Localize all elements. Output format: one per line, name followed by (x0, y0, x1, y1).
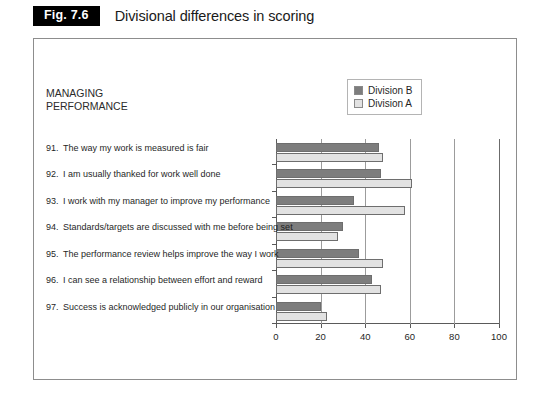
x-tick-label-20: 20 (315, 331, 326, 342)
category-number: 96. (46, 275, 63, 285)
category-label: 91.The way my work is measured is fair (46, 143, 209, 153)
chart-block-title: MANAGING PERFORMANCE (46, 87, 128, 113)
category-label: 96.I can see a relationship between effo… (46, 275, 262, 285)
bar-chart-plot-area: 020406080100 (276, 139, 499, 324)
legend-label-division-b: Division B (368, 85, 412, 96)
category-number: 93. (46, 196, 63, 206)
bar-division-b[interactable] (276, 169, 381, 178)
bar-division-b[interactable] (276, 275, 372, 284)
bar-group (276, 298, 499, 324)
bar-division-a[interactable] (276, 153, 383, 162)
x-tick-0 (276, 324, 277, 328)
bar-division-a[interactable] (276, 206, 405, 215)
bar-division-a[interactable] (276, 179, 412, 188)
category-label: 92.I am usually thanked for work well do… (46, 169, 221, 179)
x-tick-20 (321, 324, 322, 328)
figure-title: Divisional differences in scoring (115, 8, 315, 24)
x-tick-label-60: 60 (405, 331, 416, 342)
figure-heading: Fig. 7.6 Divisional differences in scori… (33, 6, 314, 26)
x-tick-40 (365, 324, 366, 328)
category-number: 92. (46, 169, 63, 179)
x-tick-label-80: 80 (449, 331, 460, 342)
category-label: 97.Success is acknowledged publicly in o… (46, 302, 275, 312)
bar-group (276, 218, 499, 244)
bar-division-a[interactable] (276, 285, 381, 294)
category-label: 93.I work with my manager to improve my … (46, 196, 270, 206)
gridline-100 (499, 139, 500, 324)
x-tick-80 (454, 324, 455, 328)
bar-division-a[interactable] (276, 259, 383, 268)
bar-group (276, 245, 499, 271)
x-tick-label-40: 40 (360, 331, 371, 342)
category-text: Success is acknowledged publicly in our … (63, 302, 275, 312)
category-text: I can see a relationship between effort … (63, 275, 262, 285)
category-number: 91. (46, 143, 63, 153)
figure-frame: MANAGING PERFORMANCE Division B Division… (33, 38, 517, 380)
legend-label-division-a: Division A (368, 98, 412, 109)
category-label: 95.The performance review helps improve … (46, 249, 279, 259)
y-tick (272, 323, 276, 324)
legend-swatch-division-b (354, 86, 363, 95)
category-number: 95. (46, 249, 63, 259)
bar-group (276, 271, 499, 297)
category-text: The way my work is measured is fair (63, 143, 209, 153)
bar-division-a[interactable] (276, 232, 338, 241)
category-text: The performance review helps improve the… (63, 249, 279, 259)
x-tick-label-100: 100 (491, 331, 507, 342)
bar-group (276, 139, 499, 165)
x-tick-60 (410, 324, 411, 328)
bar-group (276, 165, 499, 191)
bar-division-b[interactable] (276, 302, 321, 311)
category-number: 97. (46, 302, 63, 312)
x-tick-100 (499, 324, 500, 328)
bar-group (276, 192, 499, 218)
chart-legend: Division B Division A (347, 79, 422, 115)
bar-division-b[interactable] (276, 249, 359, 258)
category-number: 94. (46, 222, 63, 232)
bar-division-b[interactable] (276, 196, 354, 205)
legend-item-division-a[interactable]: Division A (354, 97, 412, 110)
category-text: Standards/targets are discussed with me … (63, 222, 293, 232)
legend-item-division-b[interactable]: Division B (354, 84, 412, 97)
bar-division-a[interactable] (276, 312, 327, 321)
bar-division-b[interactable] (276, 143, 379, 152)
category-text: I work with my manager to improve my per… (63, 196, 270, 206)
x-tick-label-0: 0 (273, 331, 278, 342)
category-text: I am usually thanked for work well done (63, 169, 221, 179)
figure-number-tag: Fig. 7.6 (33, 6, 100, 26)
category-label: 94.Standards/targets are discussed with … (46, 222, 293, 232)
legend-swatch-division-a (354, 99, 363, 108)
